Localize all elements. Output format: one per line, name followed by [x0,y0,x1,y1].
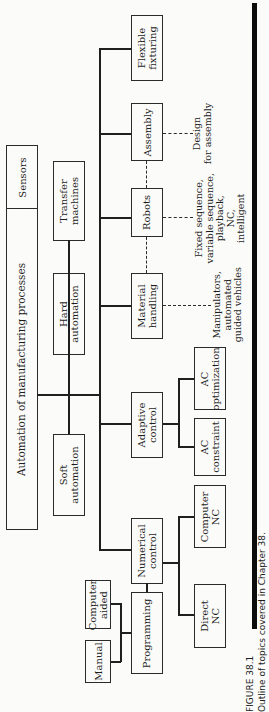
sensors-label: Sensors [17,157,28,197]
adaptive-control-label: Adaptive control [136,403,158,448]
branch-numerical [99,549,131,551]
ac-optimization-box: AC optimization [194,347,226,410]
to-ac-opt [178,378,194,380]
dash-assembly-robots [146,161,147,188]
branch-assembly [99,133,131,135]
computer-aided-label: Computer aided [87,579,109,630]
figure-text: Outline of topics covered in Chapter 38. [256,572,268,712]
to-comp-nc [178,516,194,518]
material-note-text: Manipulators, automated guided vehicles [212,267,244,342]
branch-adaptive [99,423,131,425]
numerical-stem [163,562,178,564]
branch-robots [99,217,131,219]
to-comp-aided [111,603,121,605]
programming-spine [120,603,122,662]
root-box: Automation of manufacturing processes [6,208,38,530]
dash-assembly-note [163,133,193,134]
root-to-trunk [37,394,100,396]
adaptive-control-box: Adaptive control [131,392,163,458]
flexible-fixturing-label: Flexible fixturing [136,26,158,70]
dash-material-note [163,305,211,306]
flexible-fixturing-box: Flexible fixturing [131,15,163,81]
direct-nc-label: Direct NC [199,600,221,632]
robots-label: Robots [142,195,153,230]
robots-box: Robots [131,188,163,237]
computer-nc-label: Computer NC [199,491,221,542]
robots-note: Fixed sequence, variable sequence, playb… [192,168,248,268]
soft-automation-box: Soft automation [53,434,85,516]
manual-label: Manual [93,642,104,680]
assembly-box: Assembly [131,103,163,161]
computer-nc-box: Computer NC [194,485,226,548]
branch-flexible [99,48,131,50]
material-handling-label: Material handling [136,284,158,328]
material-handling-box: Material handling [131,273,163,339]
transfer-machines-box: Transfer machines [53,161,85,241]
numerical-control-box: Numerical control [131,518,163,584]
l1-spine [68,240,70,434]
dash-robots-note [163,217,193,218]
sensors-connector [21,208,22,209]
adaptive-stem [163,423,178,425]
programming-box: Programming [131,592,163,674]
root-label: Automation of manufacturing processes [17,262,28,475]
assembly-note-text: Design for assembly [193,102,214,163]
material-note: Manipulators, automated guided vehicles [208,262,248,348]
numerical-to-programming [146,583,148,592]
to-direct-nc [178,614,194,616]
ac-constraint-label: AC constraint [199,421,221,473]
direct-nc-box: Direct NC [194,584,226,648]
robots-note-text: Fixed sequence, variable sequence, playb… [194,173,247,263]
adaptive-spine [178,378,180,446]
numerical-spine [178,516,180,615]
computer-aided-box: Computer aided [85,580,111,629]
figure-label: FIGURE 38.1 [244,572,256,712]
manual-box: Manual [85,640,111,683]
programming-label: Programming [142,598,153,668]
ac-optimization-label: AC optimization [199,347,221,410]
trunk-line [99,48,101,550]
caption-block: FIGURE 38.1 Outline of topics covered in… [244,572,268,712]
numerical-control-label: Numerical control [136,524,158,577]
branch-material [99,305,131,307]
soft-automation-label: Soft automation [58,446,80,504]
dash-robots-material [146,237,147,273]
programming-stem [120,632,131,634]
ac-constraint-box: AC constraint [194,418,226,476]
assembly-label: Assembly [142,108,153,156]
sensors-box: Sensors [6,145,38,209]
transfer-machines-label: Transfer machines [58,177,80,225]
to-ac-con [178,446,194,448]
to-manual [111,661,121,663]
assembly-note: Design for assembly [190,100,216,166]
